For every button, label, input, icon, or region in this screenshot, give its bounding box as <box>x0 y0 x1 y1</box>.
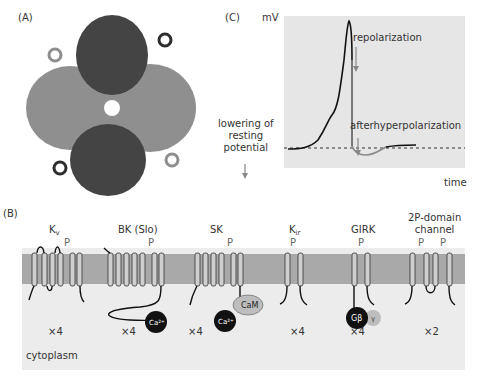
kv-multiplicity: ×4 <box>48 326 63 337</box>
afterhyperpolarization-label: afterhyperpolarization <box>350 120 461 131</box>
2p-name-line2: channel <box>408 224 461 236</box>
channel-sk-label: SK <box>210 224 223 235</box>
panel-a-letter: (A) <box>18 12 33 23</box>
lowering-line-2: resting <box>218 130 274 142</box>
kv-sub: v <box>56 229 60 237</box>
lowering-resting-potential-label: lowering of resting potential <box>218 118 274 154</box>
2p-p-label-2: P <box>440 237 446 248</box>
kir-sub: ir <box>296 229 301 237</box>
repolarization-label: repolarization <box>353 32 422 43</box>
kv-p-label: P <box>64 237 70 248</box>
sk-multiplicity: ×4 <box>188 326 203 337</box>
channel-girk-label: GIRK <box>351 224 375 235</box>
panel-b-letter: (B) <box>3 208 18 219</box>
girk-p-label: P <box>358 237 364 248</box>
channel-bk-label: BK (Slo) <box>118 224 158 235</box>
2p-p-label-1: P <box>418 237 424 248</box>
panel-c-letter: (C) <box>225 12 240 23</box>
2p-multiplicity: ×2 <box>424 326 439 337</box>
channel-2p-label: 2P-domain channel <box>408 212 461 236</box>
channel-kv-label: Kv <box>49 224 60 237</box>
y-axis-label: mV <box>262 12 279 23</box>
lowering-line-1: lowering of <box>218 118 274 130</box>
x-axis-label: time <box>444 177 467 188</box>
channel-kir-label: Kir <box>289 224 300 237</box>
bk-p-label: P <box>148 237 154 248</box>
lowering-line-3: potential <box>218 142 274 154</box>
sk-p-label: P <box>227 237 233 248</box>
2p-name-line1: 2P-domain <box>408 212 461 224</box>
kir-multiplicity: ×4 <box>290 326 305 337</box>
bk-multiplicity: ×4 <box>121 326 136 337</box>
kir-p-label: P <box>290 237 296 248</box>
membrane-band <box>22 254 465 284</box>
girk-multiplicity: ×4 <box>350 326 365 337</box>
cytoplasm-label: cytoplasm <box>26 350 78 361</box>
